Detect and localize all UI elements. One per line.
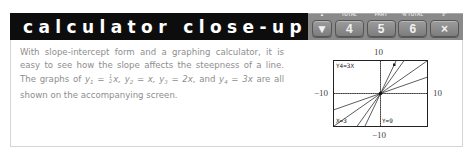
multiply-icon: × [441,23,448,35]
key-5-part: PART 5 [367,20,396,37]
key-6-percent-total: % TOTAL 6 [398,20,427,37]
key-caption: % TOTAL [399,12,426,17]
up-arrow-icon: ▲ [313,12,331,17]
key-caption: x² [431,12,458,17]
equation-y3: y3 = 2x, [159,74,195,84]
ymax-label: 10 [374,47,383,57]
explanation-paragraph: With slope-intercept form and a graphing… [20,46,284,102]
key-label: 6 [409,23,416,35]
key-caption: PART [368,12,395,17]
key-4-total: TOTAL 4 [335,20,364,37]
title-bar: calculator close-up [10,13,308,40]
cursor-x-readout: X=3 [336,118,347,124]
equation-y1: y1 = 12x, [85,74,121,84]
calculator-graph-figure: 10 −10 −10 10 Y4=3X X=3 Y=9 [314,46,449,143]
calculator-key-strip: ▲ ▼ TOTAL 4 PART 5 % TOTAL 6 x² × [308,13,463,40]
cursor-y-readout: Y=9 [382,118,393,124]
arrow-key: ▲ ▼ [312,20,332,37]
key-caption: TOTAL [336,12,363,17]
key-label: 4 [346,23,353,35]
equation-y4: y4 = 3x [219,74,253,84]
down-arrow-icon: ▼ [316,23,328,35]
graph-plot [334,61,427,126]
panel-title: calculator close-up [23,17,307,37]
xmin-label: −10 [314,88,328,98]
xmax-label: 10 [433,88,442,98]
fraction-one-half: 12 [109,74,112,84]
panel-header: calculator close-up ▲ ▼ TOTAL 4 PART 5 %… [10,13,463,40]
key-multiply: x² × [430,20,459,37]
ymin-label: −10 [372,130,386,140]
equation-y2: y2 = x, [125,74,156,84]
function-label: Y4=3X [336,63,354,69]
key-label: 5 [378,23,385,35]
calculator-screen: Y4=3X X=3 Y=9 [333,60,428,127]
